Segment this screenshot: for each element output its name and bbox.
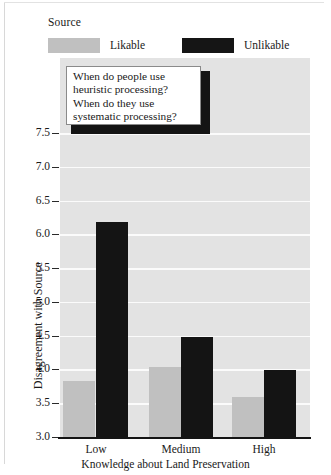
bar-high-unlikable — [264, 370, 296, 438]
x-axis-tick-label: High — [224, 443, 304, 455]
gridline — [60, 201, 310, 203]
legend: Likable Unlikable — [48, 37, 298, 55]
gridline — [60, 167, 310, 169]
annotation-line: When do people use — [73, 70, 196, 83]
y-axis-title-wrapper: Disagreement with Source — [12, 120, 32, 340]
annotation-line: When do they use — [73, 97, 196, 110]
bar-medium-likable — [149, 367, 181, 438]
legend-swatch-unlikable — [182, 38, 234, 53]
bar-low-unlikable — [96, 222, 128, 438]
y-axis-tick-mark — [52, 133, 59, 134]
legend-label-unlikable: Unlikable — [244, 37, 289, 53]
y-axis-tick-mark — [52, 167, 59, 168]
y-axis-tick-mark — [52, 369, 59, 370]
bar-medium-unlikable — [181, 337, 213, 438]
legend-swatch-likable — [48, 38, 100, 53]
x-axis-line — [58, 437, 311, 439]
annotation-line: heuristic processing? — [73, 83, 196, 96]
y-axis-tick-mark — [52, 403, 59, 404]
legend-label-likable: Likable — [110, 37, 145, 53]
y-axis-tick-mark — [52, 268, 59, 269]
y-axis-tick-mark — [52, 336, 59, 337]
legend-title: Source — [48, 16, 81, 28]
y-axis-tick-mark — [52, 302, 59, 303]
y-axis-tick-mark — [52, 234, 59, 235]
y-axis-tick-mark — [52, 201, 59, 202]
bar-low-likable — [63, 381, 95, 438]
chart-figure: Source Likable Unlikable 7.57.06.56.05.5… — [0, 0, 331, 475]
x-axis-tick-label: Medium — [141, 443, 221, 455]
x-axis-title: Knowledge about Land Preservation — [0, 458, 331, 470]
annotation-line: systematic processing? — [73, 110, 196, 123]
bar-high-likable — [232, 397, 264, 438]
x-axis-tick-label: Low — [56, 443, 136, 455]
annotation-callout-box: When do people useheuristic processing?W… — [66, 66, 201, 125]
figure-border-top — [4, 2, 324, 3]
annotation-callout: When do people useheuristic processing?W… — [66, 66, 205, 129]
y-axis-title: Disagreement with Source — [31, 216, 46, 436]
